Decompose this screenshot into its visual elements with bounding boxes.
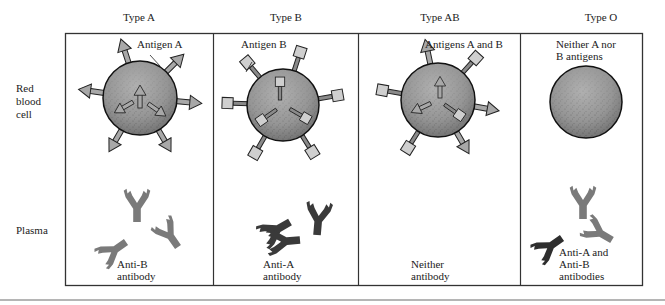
label-line: Neither — [411, 258, 450, 270]
label-antigen-b: Antigen B — [241, 38, 287, 50]
label-line: Neither A nor — [556, 38, 616, 50]
label-line: Anti-A — [263, 258, 302, 270]
anti-a-antibodies-type-b — [255, 201, 334, 256]
label-line: Anti-A and — [559, 246, 608, 258]
label-line: antibody — [411, 270, 450, 282]
label-line: antibody — [117, 270, 156, 282]
label-anti-a-antibody: Anti-A antibody — [263, 258, 302, 282]
label-line: Anti-B — [559, 258, 608, 270]
label-anti-b-antibody: Anti-B antibody — [117, 258, 156, 282]
bottom-rule — [0, 299, 665, 301]
label-line: antibody — [263, 270, 302, 282]
label-antigens-a-and-b: Antigens A and B — [425, 38, 503, 50]
label-line: B antigens — [556, 50, 616, 62]
label-line: antibodies — [559, 270, 608, 282]
red-blood-cell-type-a — [78, 37, 203, 155]
label-neither-antigen: Neither A nor B antigens — [556, 38, 616, 62]
red-blood-cell-type-b — [222, 45, 344, 160]
label-antigen-a: Antigen A — [137, 38, 183, 50]
label-line: Anti-B — [117, 258, 156, 270]
red-blood-cell-type-o — [550, 66, 622, 138]
label-neither-antibody: Neither antibody — [411, 258, 450, 282]
red-blood-cell-type-ab — [376, 38, 500, 157]
label-anti-a-and-anti-b-antibodies: Anti-A and Anti-B antibodies — [559, 246, 608, 282]
